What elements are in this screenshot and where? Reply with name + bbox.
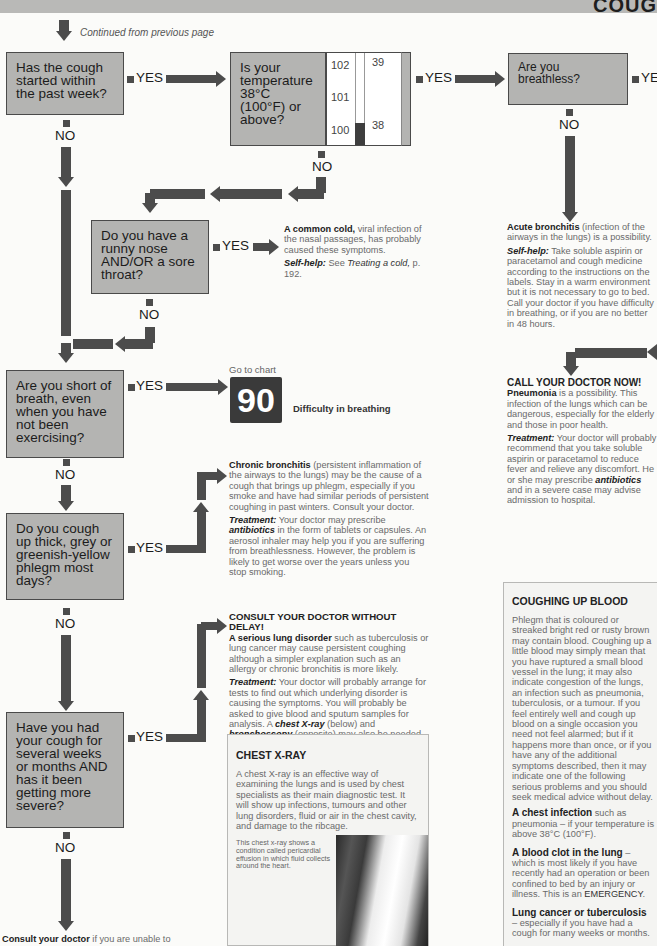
arrow-head-icon <box>217 468 227 484</box>
fahrenheit-tick: 100 <box>331 124 349 136</box>
question-phlegm: Do you cough up thick, grey or greenish-… <box>6 513 124 600</box>
arrow-bend-icon <box>125 339 153 349</box>
yes-label: YES <box>136 730 163 743</box>
urgent-heading: CONSULT YOUR DOCTOR WITHOUT DELAY! <box>229 611 396 632</box>
serious-disorder-advice: CONSULT YOUR DOCTOR WITHOUT DELAY! A ser… <box>229 612 429 743</box>
no-label: NO <box>55 468 75 481</box>
thermometer-mercury <box>355 123 365 145</box>
no-label: NO <box>55 617 75 630</box>
question-temperature: Is your temperature 38°C (100°F) or abov… <box>230 52 326 146</box>
arrow-bend-icon <box>566 352 576 366</box>
common-cold-advice: A common cold, viral infection of the na… <box>284 224 422 282</box>
gauge-edge <box>401 52 411 146</box>
chest-xray-link[interactable]: chest X-ray <box>275 719 325 729</box>
no-marker <box>63 120 70 127</box>
diagnosis-title: Pneumonia <box>507 388 557 398</box>
yes-label: YE <box>641 71 657 84</box>
yes-marker <box>128 384 135 391</box>
question-text: Has the cough started within the past we… <box>16 60 107 101</box>
arrow-bend-icon <box>201 622 217 630</box>
chronic-bronchitis-advice: Chronic bronchitis (persistent inflammat… <box>229 460 429 580</box>
yes-label: YES <box>136 541 163 554</box>
antibiotics-link[interactable]: antibiotics <box>229 525 275 535</box>
chart-title: Difficulty in breathing <box>293 403 391 414</box>
goto-chart-label: Go to chart <box>229 364 276 375</box>
selfhelp-label: Self-help: <box>507 246 549 256</box>
yes-label: YES <box>136 379 163 392</box>
yes-marker <box>128 735 135 742</box>
arrow-left-icon <box>73 339 113 349</box>
no-label: NO <box>312 160 332 173</box>
arrow-down-icon <box>59 20 69 31</box>
consult-title: Consult your doctor <box>2 934 90 944</box>
arrow-left-icon <box>220 189 282 199</box>
yes-label: YES <box>136 71 163 84</box>
yes-marker <box>416 76 423 83</box>
fahrenheit-tick: 102 <box>331 59 349 71</box>
question-breathless: Are you breathless? <box>508 53 628 105</box>
question-text: Are you breathless? <box>518 60 580 86</box>
arrow-right-icon <box>253 243 269 251</box>
treatment-text: Your doctor may prescribe <box>276 515 385 525</box>
selfhelp-text: See <box>326 258 347 268</box>
question-short-of-breath: Are you short of breath, even when you h… <box>6 370 124 458</box>
chest-xray-image <box>336 835 428 946</box>
antibiotics-link[interactable]: antibiotics <box>595 475 641 485</box>
urgent-heading: CALL YOUR DOCTOR NOW! <box>507 377 641 388</box>
condition-text: . <box>642 889 645 899</box>
arrow-head-icon <box>115 336 125 352</box>
diagnosis-title: A common cold, <box>284 224 355 234</box>
arrow-head-icon <box>58 921 74 931</box>
no-label: NO <box>55 129 75 142</box>
xray-caption: This chest x-ray shows a condition calle… <box>236 839 331 870</box>
arrow-head-icon <box>288 186 298 202</box>
question-text: Do you cough up thick, grey or greenish-… <box>16 521 112 588</box>
treatment-text: and in a severe case may advise admissio… <box>507 485 641 505</box>
arrow-bend-icon <box>61 343 71 353</box>
consult-text: if you are unable to <box>90 934 171 944</box>
arrow-down-icon <box>61 635 71 701</box>
question-cough-weeks: Have you had your cough for several week… <box>6 712 124 828</box>
arrow-head-icon <box>217 618 227 634</box>
panel-body: Phlegm that is coloured or streaked brig… <box>512 615 654 939</box>
arrow-down-icon <box>61 147 71 177</box>
no-marker <box>63 608 70 615</box>
treating-cold-link[interactable]: Treating a cold, <box>347 258 410 268</box>
arrow-left-icon <box>575 348 647 358</box>
selfhelp-label: Self-help: <box>284 258 326 268</box>
chart-90-link[interactable]: 90 <box>230 377 282 423</box>
no-label: NO <box>559 118 579 131</box>
question-text: Do you have a runny nose AND/OR a sore t… <box>101 228 195 282</box>
blood-intro: Phlegm that is coloured or streaked brig… <box>512 615 654 802</box>
arrow-head-icon <box>218 379 228 395</box>
consult-doctor-note: Consult your doctor if you are unable to <box>2 934 232 944</box>
arrow-head-icon <box>56 31 72 41</box>
question-cough-past-week: Has the cough started within the past we… <box>6 52 124 115</box>
question-text: Have you had your cough for several week… <box>16 720 108 813</box>
pneumonia-advice: CALL YOUR DOCTOR NOW! Pneumonia is a pos… <box>507 378 657 509</box>
treatment-text: (below) and <box>325 719 376 729</box>
arrow-bend-icon <box>145 193 155 203</box>
arrow-right-icon <box>166 75 216 83</box>
yes-marker <box>213 244 220 251</box>
selfhelp-text: Take soluble aspirin or paracetamol and … <box>507 246 654 329</box>
condition-title: A chest infection <box>512 807 592 818</box>
condition-text: – especially if you have had a cough for… <box>512 918 650 938</box>
diagnosis-title: Acute bronchitis <box>507 222 580 232</box>
arrow-bend-icon <box>298 189 324 199</box>
panel-heading: COUGHING UP BLOOD <box>512 595 654 607</box>
treatment-label: Treatment: <box>507 433 554 443</box>
question-text: Are you short of breath, even when you h… <box>16 378 111 445</box>
yes-marker <box>128 546 135 553</box>
arrow-up-icon <box>197 700 206 742</box>
diagnosis-title: A serious lung disorder <box>229 633 332 643</box>
arrow-head-icon <box>193 502 209 512</box>
arrow-head-icon <box>647 344 657 360</box>
arrow-head-icon <box>58 353 74 363</box>
arrow-bend-icon <box>201 472 217 480</box>
arrow-head-icon <box>58 701 74 711</box>
fahrenheit-tick: 101 <box>331 91 349 103</box>
arrow-right-icon <box>455 75 495 83</box>
arrow-right-icon <box>166 383 218 391</box>
emergency-label: EMERGENCY <box>584 889 642 899</box>
